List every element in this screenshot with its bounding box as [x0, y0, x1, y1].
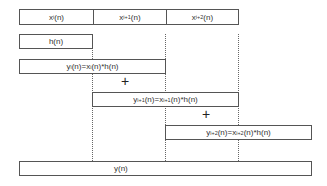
segment-suffix: (n): [131, 13, 141, 22]
input-segment-xi2: xi+2(n): [166, 10, 238, 24]
input-segment-xi: xi(n): [20, 10, 93, 24]
filter-box: h(n): [19, 34, 93, 49]
partial-output-yi2: yi+2(n)=xi+2(n)*h(n): [165, 125, 312, 140]
x-sub: i+1: [163, 97, 171, 103]
mid-label: (n)=x: [72, 62, 90, 71]
partial-output-yi: yi(n)=xi(n)*h(n): [19, 59, 166, 74]
end-label: (n)*h(n): [244, 128, 271, 137]
input-segment-xi1: xi+1(n): [93, 10, 166, 24]
segment-suffix: (n): [203, 13, 213, 22]
segment-sub: i+2: [196, 14, 204, 20]
y-sub: i+2: [210, 130, 218, 136]
mid-label: (n)=x: [218, 128, 236, 137]
plus-operator-2: +: [202, 107, 210, 121]
output-signal-box: y(n): [19, 161, 312, 176]
filter-label: h(n): [49, 37, 63, 46]
plus-operator-1: +: [121, 74, 129, 88]
end-label: (n)*h(n): [171, 95, 198, 104]
end-label: (n)*h(n): [91, 62, 118, 71]
segment-sub: i+1: [123, 14, 131, 20]
partial-output-yi1: yi+1(n)=xi+1(n)*h(n): [92, 92, 239, 107]
output-label: y(n): [114, 164, 128, 173]
x-sub: i+2: [236, 130, 244, 136]
segment-suffix: (n): [54, 13, 64, 22]
input-signal-row: xi(n) xi+1(n) xi+2(n): [19, 9, 239, 25]
y-sub: i+1: [137, 97, 145, 103]
mid-label: (n)=x: [145, 95, 163, 104]
